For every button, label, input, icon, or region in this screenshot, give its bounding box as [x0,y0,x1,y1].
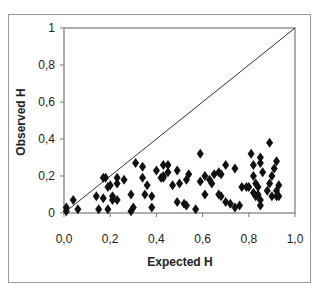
y-tick-label: 0,2 [38,169,55,183]
y-axis-ticks: 00,20,40,60,81 [38,21,64,220]
x-axis-title: Expected H [147,255,212,269]
x-axis-ticks: 0,00,20,40,60,81,0 [56,213,304,246]
x-tick-label: 0,6 [194,232,211,246]
scatter-chart: 00,20,40,60,81 0,00,20,40,60,81,0 Expect… [0,0,325,294]
x-tick-label: 1,0 [287,232,304,246]
x-tick-label: 0,4 [148,232,165,246]
y-tick-label: 0,8 [38,58,55,72]
x-tick-label: 0,0 [56,232,73,246]
y-tick-label: 0,6 [38,95,55,109]
x-tick-label: 0,8 [240,232,257,246]
y-tick-label: 0,4 [38,132,55,146]
y-tick-label: 1 [48,21,55,35]
y-tick-label: 0 [48,206,55,220]
x-tick-label: 0,2 [102,232,119,246]
y-axis-title: Observed H [14,88,28,155]
